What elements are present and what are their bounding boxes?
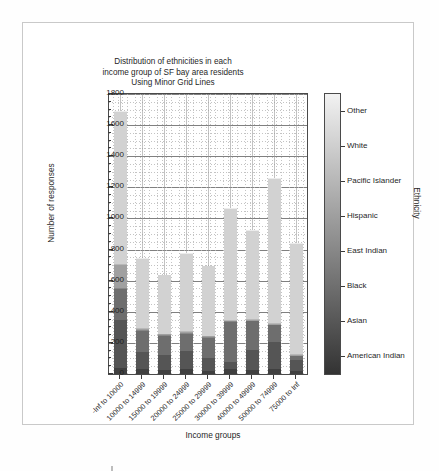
x-axis-tick-mark bbox=[163, 375, 164, 379]
bar-segment[interactable] bbox=[158, 336, 171, 355]
x-axis-tick-mark bbox=[185, 375, 186, 379]
y-axis-tick-label: 1400 bbox=[84, 150, 124, 159]
bar-stack[interactable] bbox=[246, 230, 259, 374]
bar-segment[interactable] bbox=[246, 350, 259, 369]
y-axis-tick-mark-minor bbox=[108, 194, 111, 195]
bar-stack[interactable] bbox=[202, 266, 215, 374]
colorbar-tick-label: American Indian bbox=[347, 351, 405, 360]
bar-segment[interactable] bbox=[268, 369, 281, 374]
y-axis-tick-label: 600 bbox=[84, 275, 124, 284]
bar-segment[interactable] bbox=[224, 322, 237, 362]
x-axis-tick-mark bbox=[229, 375, 230, 379]
bar-segment[interactable] bbox=[202, 358, 215, 370]
bar-segment[interactable] bbox=[290, 360, 303, 372]
colorbar[interactable] bbox=[324, 93, 341, 375]
x-axis-tick-mark bbox=[141, 375, 142, 379]
bar-segment[interactable] bbox=[290, 244, 303, 354]
colorbar-title: Ethnicity bbox=[412, 158, 422, 248]
y-axis-tick-mark-minor bbox=[108, 303, 111, 304]
bar-stack[interactable] bbox=[136, 258, 149, 374]
y-axis-tick-mark-minor bbox=[108, 202, 111, 203]
y-axis-tick-mark-minor bbox=[108, 256, 111, 257]
colorbar-tick-label: Black bbox=[347, 281, 367, 290]
bar-segment[interactable] bbox=[246, 321, 259, 350]
y-axis-tick-mark-minor bbox=[108, 101, 111, 102]
decorative-speck bbox=[111, 466, 113, 471]
bar-segment[interactable] bbox=[246, 231, 259, 320]
bar-segment[interactable] bbox=[180, 254, 193, 332]
bar-segment[interactable] bbox=[180, 334, 193, 351]
bar-segment[interactable] bbox=[136, 369, 149, 374]
bar-segment[interactable] bbox=[202, 371, 215, 374]
colorbar-tick-mark bbox=[341, 251, 345, 252]
bar-stack[interactable] bbox=[224, 208, 237, 374]
y-axis-tick-mark-minor bbox=[108, 264, 111, 265]
y-axis-tick-label: 1000 bbox=[84, 212, 124, 221]
plot-area bbox=[108, 93, 308, 375]
colorbar-tick-label: East Indian bbox=[347, 246, 387, 255]
x-axis-tick-mark bbox=[207, 375, 208, 379]
grid-line-minor-vertical bbox=[259, 94, 260, 374]
y-axis-tick-mark-minor bbox=[108, 295, 111, 296]
figure-frame: Distribution of ethnicities in each inco… bbox=[22, 22, 414, 425]
grid-line-minor-vertical bbox=[215, 94, 216, 374]
bar-segment[interactable] bbox=[268, 325, 281, 341]
bar-stack[interactable] bbox=[158, 275, 171, 374]
bar-segment[interactable] bbox=[224, 369, 237, 374]
chart-title: Distribution of ethnicities in each inco… bbox=[53, 57, 293, 89]
x-axis-tick-mark bbox=[119, 375, 120, 379]
grid-line-minor-vertical bbox=[193, 94, 194, 374]
bar-segment[interactable] bbox=[158, 370, 171, 374]
colorbar-gradient bbox=[325, 94, 340, 374]
y-axis-tick-label: 400 bbox=[84, 306, 124, 315]
y-axis-tick-mark-minor bbox=[108, 357, 111, 358]
y-axis-tick-mark-minor bbox=[108, 147, 111, 148]
bar-segment[interactable] bbox=[114, 289, 127, 319]
colorbar-tick-label: Other bbox=[347, 106, 367, 115]
bar-segment[interactable] bbox=[158, 355, 171, 370]
colorbar-tick-mark bbox=[341, 321, 345, 322]
bar-stack[interactable] bbox=[180, 253, 193, 374]
y-axis-tick-mark-minor bbox=[108, 334, 111, 335]
y-axis-tick-mark-minor bbox=[108, 171, 111, 172]
grid-line-minor-vertical bbox=[281, 94, 282, 374]
y-axis-tick-mark-minor bbox=[108, 319, 111, 320]
bar-segment[interactable] bbox=[224, 209, 237, 320]
bar-segment[interactable] bbox=[136, 259, 149, 328]
y-axis-tick-label: 0 bbox=[84, 368, 124, 377]
bar-stack[interactable] bbox=[268, 178, 281, 374]
y-axis-tick-mark-minor bbox=[108, 272, 111, 273]
colorbar-tick-mark bbox=[341, 286, 345, 287]
bar-segment[interactable] bbox=[268, 179, 281, 323]
y-axis-label: Number of responses bbox=[46, 148, 56, 258]
grid-line-minor-vertical bbox=[237, 94, 238, 374]
y-axis-tick-mark-minor bbox=[108, 326, 111, 327]
colorbar-tick-mark bbox=[341, 181, 345, 182]
y-axis-tick-mark-minor bbox=[108, 210, 111, 211]
colorbar-tick-label: Hispanic bbox=[347, 211, 378, 220]
bar-segment[interactable] bbox=[180, 369, 193, 374]
bar-segment[interactable] bbox=[136, 331, 149, 352]
colorbar-tick-mark bbox=[341, 356, 345, 357]
bar-segment[interactable] bbox=[202, 338, 215, 359]
y-axis-tick-mark-minor bbox=[108, 163, 111, 164]
x-axis-tick-mark bbox=[273, 375, 274, 379]
grid-line-minor-vertical bbox=[127, 94, 128, 374]
y-axis-tick-mark-minor bbox=[108, 233, 111, 234]
bar-segment[interactable] bbox=[180, 351, 193, 370]
bar-segment[interactable] bbox=[202, 266, 215, 335]
colorbar-tick-mark bbox=[341, 111, 345, 112]
y-axis-tick-mark-minor bbox=[108, 241, 111, 242]
bar-segment[interactable] bbox=[268, 342, 281, 369]
bar-stack[interactable] bbox=[290, 243, 303, 374]
bar-segment[interactable] bbox=[290, 371, 303, 374]
chart-title-line-2: income group of SF bay area residents bbox=[53, 68, 293, 79]
bar-segment[interactable] bbox=[246, 370, 259, 374]
bar-segment[interactable] bbox=[224, 362, 237, 370]
x-axis-tick-mark bbox=[295, 375, 296, 379]
y-axis-tick-mark-minor bbox=[108, 179, 111, 180]
y-axis-tick-label: 200 bbox=[84, 337, 124, 346]
grid-line-minor-vertical bbox=[171, 94, 172, 374]
bar-segment[interactable] bbox=[158, 275, 171, 333]
bar-segment[interactable] bbox=[136, 352, 149, 369]
